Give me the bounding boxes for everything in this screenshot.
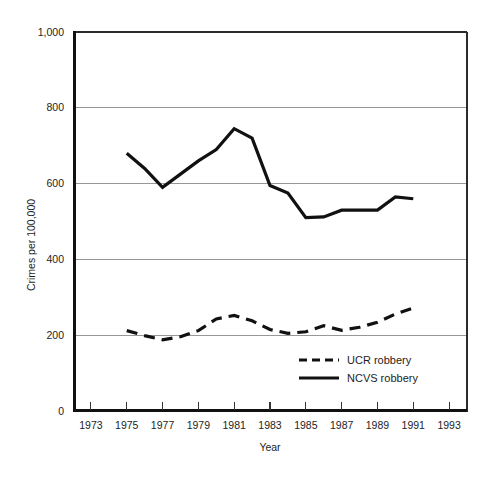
x-tick-label-1979: 1979 (187, 419, 211, 431)
y-tick-label-600: 600 (46, 177, 64, 189)
x-tick-label-1989: 1989 (366, 419, 390, 431)
legend-label-ncvs-robbery: NCVS robbery (347, 372, 418, 384)
y-tick-label-200: 200 (46, 329, 64, 341)
x-tick-label-1991: 1991 (402, 419, 426, 431)
y-tick-label-800: 800 (46, 101, 64, 113)
x-tick-label-1985: 1985 (294, 419, 318, 431)
x-tick-label-1983: 1983 (258, 419, 282, 431)
x-tick-label-1981: 1981 (223, 419, 247, 431)
x-tick-label-group: 1973197519771979198119831985198719891991… (79, 419, 461, 431)
chart-figure: 1973197519771979198119831985198719891991… (0, 0, 492, 477)
line-chart-svg: 1973197519771979198119831985198719891991… (0, 0, 492, 477)
x-tick-label-1977: 1977 (151, 419, 175, 431)
x-tick-label-1973: 1973 (79, 419, 103, 431)
y-tick-label-0: 0 (58, 405, 64, 417)
x-axis-title: Year (259, 441, 281, 453)
x-tick-label-1987: 1987 (330, 419, 354, 431)
y-tick-label-1000: 1,000 (38, 26, 64, 38)
y-tick-label-400: 400 (46, 253, 64, 265)
x-tick-label-1993: 1993 (437, 419, 461, 431)
legend-label-ucr-robbery: UCR robbery (347, 354, 412, 366)
y-axis-title: Crimes per 100,000 (25, 199, 37, 291)
x-tick-label-1975: 1975 (115, 419, 139, 431)
